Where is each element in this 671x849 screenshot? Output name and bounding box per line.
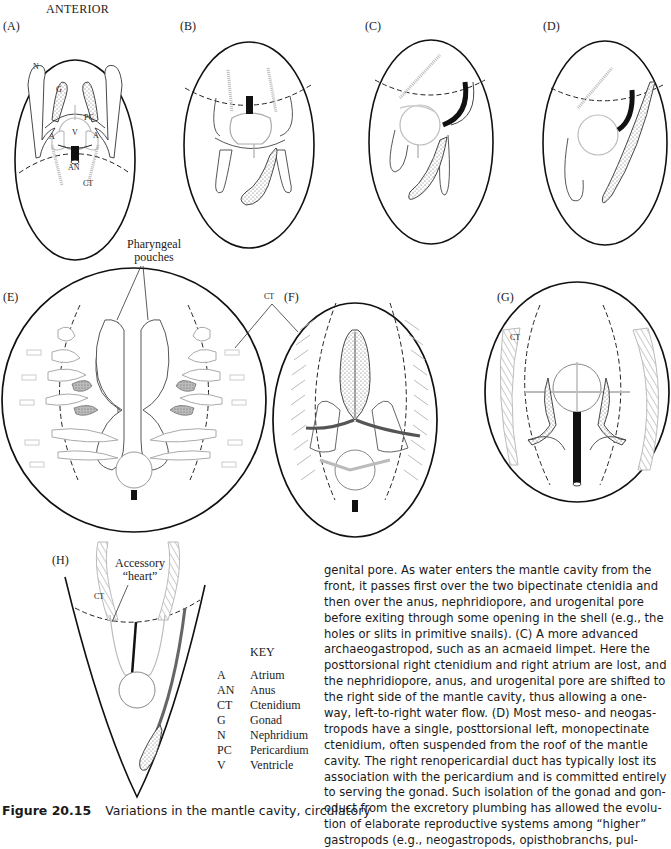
callout-ct-g: CT (510, 333, 520, 342)
body-text-line: tropods have a single, posttorsional lef… (324, 722, 671, 738)
key-term: Anus (250, 683, 275, 698)
callout-accessory-line2: “heart” (110, 570, 170, 583)
key-entry: ANAnus (217, 683, 309, 698)
body-text-line: then over the anus, nephridiopore, and u… (324, 595, 671, 611)
body-text-line: the right side of the mantle cavity, thu… (324, 690, 671, 706)
key-entry: AAtrium (217, 668, 309, 683)
panel-e-diagram (2, 266, 266, 532)
key-abbr: PC (217, 743, 250, 758)
body-text-column: genital pore. As water enters the mantle… (324, 563, 671, 849)
figure-number: Figure 20.15 (2, 803, 91, 818)
ct-callout-lines (235, 304, 298, 348)
panel-a-diagram (15, 60, 135, 260)
key-term: Ventricle (250, 758, 293, 773)
key-title: KEY (250, 645, 309, 660)
key-term: Ctenidium (250, 698, 301, 713)
panel-label-f: (F) (284, 290, 299, 305)
body-text-line: gastropods (e.g., neogastropods, opistho… (324, 833, 671, 849)
panel-b-diagram (184, 42, 314, 248)
body-text-line: association with the pericardium and is … (324, 770, 671, 786)
panel-label-g: (G) (497, 290, 514, 305)
key-entry: PCPericardium (217, 743, 309, 758)
body-text-line: ctenidium, often suspended from the roof… (324, 738, 671, 754)
callout-pharyngeal-pouches: Pharyngeal pouches (114, 238, 194, 264)
key-term: Atrium (250, 668, 285, 683)
callout-pharyngeal-line2: pouches (114, 251, 194, 264)
label-ctenidium: CT (83, 179, 93, 188)
label-anus: AN (68, 163, 80, 172)
panel-label-c: (C) (365, 19, 381, 34)
body-text-line: the nephridiopore, anus, and urogenital … (324, 674, 671, 690)
figure-caption: Figure 20.15Variations in the mantle cav… (2, 803, 371, 818)
panel-label-b: (B) (180, 19, 196, 34)
body-text-line: oduct from the excretory plumbing has al… (324, 801, 671, 817)
body-text-line: holes or slits in primitive snails). (C)… (324, 627, 671, 643)
callout-ct-ef: CT (264, 292, 274, 301)
label-ventricle: V (72, 128, 78, 137)
panel-f-diagram (273, 303, 437, 537)
key-entry: GGonad (217, 713, 309, 728)
label-atrium-left: A (49, 132, 55, 141)
key-abbr: V (217, 758, 250, 773)
callout-accessory-heart: Accessory “heart” (110, 557, 170, 583)
key-entry: VVentricle (217, 758, 309, 773)
panel-d-diagram (543, 41, 667, 245)
label-gonad: G (56, 85, 62, 94)
body-text-line: to serving the gonad. Such isolation of … (324, 785, 671, 801)
key-entry: CTCtenidium (217, 698, 309, 713)
label-pericardium: PC (84, 113, 94, 122)
callout-ct-h: CT (94, 592, 104, 601)
figure-caption-text: Variations in the mantle cavity, circula… (105, 803, 370, 818)
key-abbr: A (217, 668, 250, 683)
key-legend: KEY AAtrium ANAnus CTCtenidium GGonad NN… (217, 645, 309, 773)
label-atrium-right: A (93, 131, 99, 140)
key-term: Gonad (250, 713, 282, 728)
body-text-line: before exiting through some opening in t… (324, 611, 671, 627)
key-abbr: G (217, 713, 250, 728)
key-abbr: AN (217, 683, 250, 698)
body-text-line: cavity. The right renopericardial duct h… (324, 754, 671, 770)
panel-c-diagram (369, 40, 493, 244)
panel-label-a: (A) (3, 19, 20, 34)
body-text-line: archaeogastropod, such as an acmaeid lim… (324, 642, 671, 658)
panel-label-h: (H) (52, 553, 69, 568)
panel-g-diagram (485, 282, 669, 502)
panel-label-d: (D) (543, 19, 560, 34)
body-text-line: front, it passes first over the two bipe… (324, 579, 671, 595)
panel-label-e: (E) (3, 290, 18, 305)
key-entry: NNephridium (217, 728, 309, 743)
key-term: Nephridium (250, 728, 308, 743)
key-term: Pericardium (250, 743, 309, 758)
body-text-line: way, left-to-right water flow. (D) Most … (324, 706, 671, 722)
body-text-line: tion of elaborate reproductive systems a… (324, 817, 671, 833)
orientation-label-anterior: ANTERIOR (46, 2, 109, 17)
key-abbr: CT (217, 698, 250, 713)
label-nephridium: N (33, 62, 39, 71)
body-text-line: posttorsional right ctenidium and right … (324, 658, 671, 674)
body-text-line: genital pore. As water enters the mantle… (324, 563, 671, 579)
key-abbr: N (217, 728, 250, 743)
